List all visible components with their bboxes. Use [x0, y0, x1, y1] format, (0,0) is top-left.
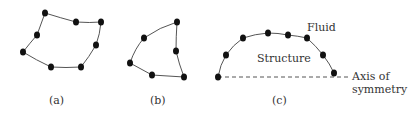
axis-label-line2: symmetry [352, 84, 407, 96]
caption-a: (a) [49, 95, 64, 107]
structure-label: Structure [257, 53, 311, 65]
fluid-label: Fluid [307, 22, 336, 34]
caption-c: (c) [272, 95, 287, 107]
caption-b: (b) [150, 95, 166, 107]
element-a [23, 13, 101, 68]
axis-label-line1: Axis of [352, 71, 390, 83]
